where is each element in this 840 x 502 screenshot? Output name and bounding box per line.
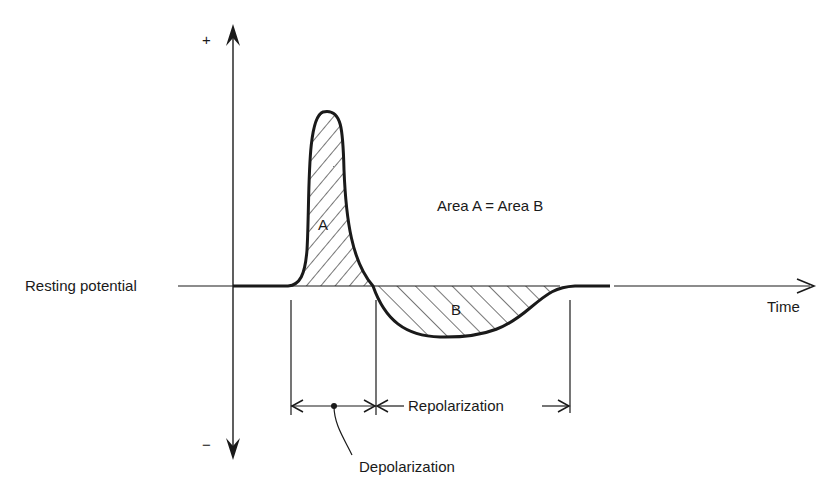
depolarization-leader-line: [334, 406, 352, 455]
area-a-label: A: [318, 216, 328, 233]
area-b-label: B: [451, 301, 461, 318]
positive-sign-label: +: [202, 31, 211, 48]
voltage-axis: [226, 24, 240, 460]
depolarization-label: Depolarization: [359, 458, 455, 475]
area-a-fill: [291, 112, 373, 286]
time-axis-label: Time: [767, 298, 800, 315]
resting-potential-label: Resting potential: [25, 277, 137, 294]
repolarization-label: Repolarization: [408, 397, 504, 414]
action-potential-diagram: + − A B Area A = Area B Resting potentia…: [0, 0, 840, 502]
area-equation-label: Area A = Area B: [437, 197, 543, 214]
area-b-fill: [373, 286, 560, 337]
negative-sign-label: −: [202, 436, 211, 453]
